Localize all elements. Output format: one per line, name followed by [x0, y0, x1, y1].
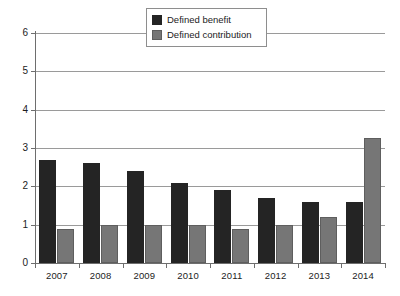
bar-chart: 0123456 20072008200920102011201220132014… [0, 0, 400, 296]
bar [145, 225, 162, 263]
legend-item-defined-contribution: Defined contribution [152, 27, 261, 42]
x-tick-mark [79, 263, 80, 268]
bar-group [298, 33, 342, 263]
x-tick-label: 2008 [79, 270, 123, 281]
bar [101, 225, 118, 263]
x-tick-mark [298, 263, 299, 268]
y-tick-label: 0 [0, 258, 28, 268]
bar [127, 171, 144, 263]
bar [232, 229, 249, 264]
bar [171, 183, 188, 264]
bar-group [166, 33, 210, 263]
bar [39, 160, 56, 264]
x-tick-mark [35, 263, 36, 268]
y-tick-label: 5 [0, 66, 28, 76]
x-tick-mark [254, 263, 255, 268]
legend-label: Defined benefit [167, 15, 231, 25]
x-tick-label: 2014 [341, 270, 385, 281]
bar [320, 217, 337, 263]
x-tick-mark [210, 263, 211, 268]
x-tick-mark [166, 263, 167, 268]
x-tick-label: 2007 [35, 270, 79, 281]
plot-area [35, 33, 385, 263]
y-tick-label: 1 [0, 220, 28, 230]
x-tick-label: 2013 [298, 270, 342, 281]
legend-swatch-icon [152, 30, 162, 40]
y-tick-label: 6 [0, 28, 28, 38]
legend-label: Defined contribution [167, 30, 252, 40]
bar [302, 202, 319, 263]
x-tick-mark [385, 263, 386, 268]
x-tick-label: 2009 [123, 270, 167, 281]
bar-group [35, 33, 79, 263]
x-tick-label: 2011 [210, 270, 254, 281]
bar-group [123, 33, 167, 263]
bar [189, 225, 206, 263]
x-tick-label: 2012 [254, 270, 298, 281]
bar-group [341, 33, 385, 263]
x-tick-mark [123, 263, 124, 268]
x-tick-label: 2010 [166, 270, 210, 281]
bar-group [254, 33, 298, 263]
legend-item-defined-benefit: Defined benefit [152, 12, 261, 27]
bar [83, 163, 100, 263]
y-tick-label: 4 [0, 105, 28, 115]
legend: Defined benefit Defined contribution [146, 8, 267, 47]
bar-group [210, 33, 254, 263]
legend-swatch-icon [152, 15, 162, 25]
y-tick-label: 2 [0, 181, 28, 191]
bar [214, 190, 231, 263]
x-tick-mark [341, 263, 342, 268]
bar [346, 202, 363, 263]
bar [258, 198, 275, 263]
bar [276, 225, 293, 263]
bar [57, 229, 74, 264]
bar [364, 138, 381, 263]
bar-group [79, 33, 123, 263]
y-tick-label: 3 [0, 143, 28, 153]
